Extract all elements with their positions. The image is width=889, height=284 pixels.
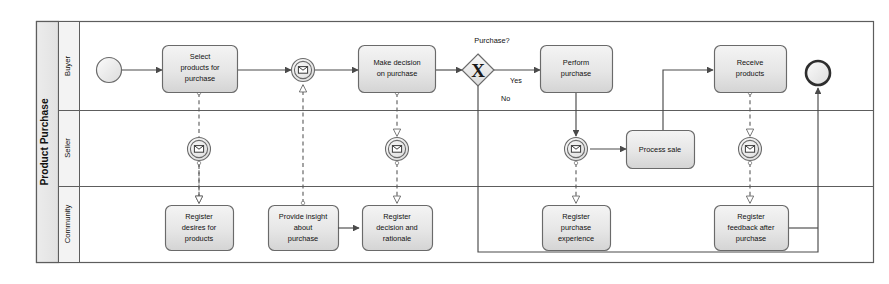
task-register-experience[interactable]: Register purchase experience — [543, 206, 611, 251]
task-label: desires for — [182, 223, 217, 232]
flow-label-yes: Yes — [510, 76, 522, 85]
flow-label-no: No — [501, 94, 510, 103]
envelope-icon — [745, 146, 754, 153]
start-event[interactable] — [97, 58, 122, 83]
envelope-icon — [571, 146, 580, 153]
lane-label-community: Community — [63, 205, 72, 244]
intermediate-message-event-buyer[interactable] — [292, 59, 315, 82]
task-perform-purchase[interactable]: Perform purchase — [541, 46, 613, 93]
task-label: Provide insight — [279, 212, 327, 221]
task-label: purchase — [288, 234, 318, 243]
end-event[interactable] — [806, 61, 830, 85]
task-label: on purchase — [377, 69, 418, 78]
gateway-label: Purchase? — [474, 36, 509, 45]
task-label: products — [185, 234, 214, 243]
task-label: products — [736, 69, 765, 78]
task-label: decision and — [376, 223, 418, 232]
bpmn-diagram: Product Purchase Buyer Seller Community — [0, 0, 889, 284]
intermediate-message-event-seller-1[interactable] — [188, 138, 211, 161]
task-label: Receive — [737, 58, 764, 67]
task-label: Make decision — [373, 58, 420, 67]
task-label: purchase — [736, 234, 766, 243]
task-label: rationale — [383, 234, 411, 243]
task-label: purchase — [561, 69, 591, 78]
task-process-sale[interactable]: Process sale — [627, 131, 695, 169]
task-select-products[interactable]: Select products for purchase — [163, 46, 238, 93]
task-label: about — [294, 223, 313, 232]
lane-label-buyer: Buyer — [63, 56, 72, 76]
task-receive-products[interactable]: Receive products — [715, 46, 787, 93]
task-label: Select — [190, 52, 211, 61]
envelope-icon — [298, 67, 307, 74]
task-label: experience — [558, 234, 594, 243]
task-label: purchase — [185, 74, 215, 83]
task-label: Register — [737, 212, 765, 221]
task-label: Register — [383, 212, 411, 221]
task-label: Register — [185, 212, 213, 221]
task-label: Register — [562, 212, 590, 221]
task-register-decision[interactable]: Register decision and rationale — [363, 206, 433, 251]
task-provide-insight[interactable]: Provide insight about purchase — [269, 206, 339, 251]
task-label: feedback after — [728, 223, 775, 232]
intermediate-message-event-seller-4[interactable] — [739, 138, 762, 161]
gateway-x-icon: X — [471, 60, 485, 81]
pool-label: Product Purchase — [39, 98, 50, 186]
envelope-icon — [392, 146, 401, 153]
task-make-decision[interactable]: Make decision on purchase — [359, 46, 436, 93]
lane-label-seller: Seller — [63, 138, 72, 158]
task-label: Process sale — [639, 145, 681, 154]
envelope-icon — [194, 146, 203, 153]
task-label: Perform — [563, 58, 589, 67]
task-label: purchase — [561, 223, 591, 232]
task-register-feedback[interactable]: Register feedback after purchase — [715, 206, 789, 251]
task-label: products for — [180, 63, 220, 72]
intermediate-message-event-seller-2[interactable] — [386, 138, 409, 161]
intermediate-message-event-seller-3[interactable] — [565, 138, 588, 161]
task-register-desires[interactable]: Register desires for products — [166, 206, 234, 251]
